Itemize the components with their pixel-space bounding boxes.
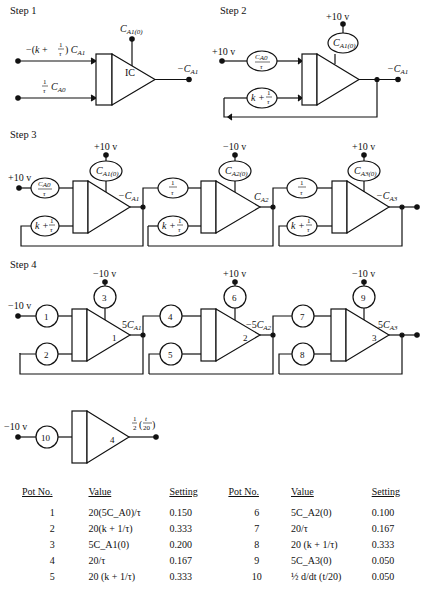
output-node (187, 77, 191, 81)
svg-text:1: 1 (112, 333, 117, 343)
svg-text:CA2: CA2 (254, 191, 269, 204)
svg-text:3: 3 (372, 333, 377, 343)
svg-text:k +: k + (162, 220, 176, 231)
step-1-label: Step 1 (10, 5, 37, 16)
step-4-scaled-circuit: −10 v 1 2 1 3 −10 v 5CA1 4 5 2 (4, 268, 419, 463)
svg-text:8: 8 (300, 350, 305, 360)
svg-text:k +: k + (35, 220, 49, 231)
table-row: 2 20(k + 1/τ) 0.333 7 20/τ 0.167 (22, 520, 421, 536)
svg-text:+10 v: +10 v (326, 11, 349, 22)
svg-text:−10 v: −10 v (223, 141, 246, 152)
svg-text:6: 6 (232, 293, 237, 303)
svg-text:2: 2 (243, 333, 248, 343)
svg-text:τ: τ (59, 50, 62, 58)
step-2-label: Step 2 (220, 5, 247, 16)
svg-text:9: 9 (361, 293, 366, 303)
svg-text:−10 v: −10 v (352, 268, 375, 279)
step-3-label: Step 3 (10, 129, 37, 140)
table-row: 4 20/τ 0.167 9 5C_A3(0) 0.050 (22, 552, 421, 568)
analog-computer-diagram: Step 1 IC −(k + 1 τ ) CA1 1 τ CA0 CA1(0)… (0, 0, 421, 480)
svg-text:−(k +: −(k + (26, 44, 48, 56)
step-2-integrator: +10 v CA0 τ k + 1 τ CA1(0) +10 v −CA1 (212, 11, 408, 120)
step-3-chain: +10 v CA0 τ k + 1 τ CA1(0) +10 v −CA1 1 … (8, 141, 419, 246)
svg-text:−10 v: −10 v (93, 268, 116, 279)
input-node (16, 96, 20, 100)
svg-text:2: 2 (133, 424, 137, 432)
table-row: 1 20(5C_A0)/τ 0.150 6 5C_A2(0) 0.100 (22, 504, 421, 520)
svg-text:4: 4 (110, 435, 115, 445)
col-setting: Setting (169, 484, 228, 504)
svg-text:1: 1 (44, 312, 49, 322)
op-amp-triangle (112, 54, 155, 105)
svg-text:4: 4 (168, 312, 173, 322)
svg-text:+10 v: +10 v (352, 141, 375, 152)
col-value-2: Value (285, 484, 372, 504)
svg-text:CA0: CA0 (51, 81, 66, 94)
svg-text:1: 1 (43, 78, 47, 86)
svg-text:+10 v: +10 v (212, 46, 235, 57)
svg-text:−CA1: −CA1 (177, 63, 198, 76)
svg-text:1: 1 (267, 89, 271, 97)
svg-text:+10 v: +10 v (94, 141, 117, 152)
svg-text:5: 5 (168, 350, 173, 360)
svg-text:−CA1: −CA1 (387, 63, 408, 76)
svg-text:1: 1 (171, 179, 175, 187)
svg-text:+10 v: +10 v (223, 268, 246, 279)
input-node (16, 59, 20, 63)
table-header: Pot No. Value Setting Pot No. Value Sett… (22, 484, 421, 504)
step-4-label: Step 4 (10, 259, 37, 270)
col-value: Value (82, 484, 169, 504)
svg-text:CA1(0): CA1(0) (120, 23, 143, 36)
svg-text:CA0: CA0 (255, 53, 268, 62)
summing-block (96, 54, 112, 105)
svg-text:): ) (152, 419, 155, 431)
svg-text:k +: k + (251, 92, 265, 103)
table-row: 3 5C_A1(0) 0.200 8 20 (k + 1/τ) 0.333 (22, 536, 421, 552)
col-pot-no-2: Pot No. (228, 484, 285, 504)
svg-text:CA0: CA0 (38, 180, 51, 189)
svg-text:1: 1 (307, 217, 311, 225)
svg-text:) CA1: ) CA1 (65, 44, 85, 57)
svg-text:2: 2 (44, 350, 49, 360)
pot-settings-table: Pot No. Value Setting Pot No. Value Sett… (22, 484, 421, 584)
col-setting-2: Setting (372, 484, 421, 504)
svg-text:+10 v: +10 v (8, 172, 31, 183)
step-1-integrator: IC −(k + 1 τ ) CA1 1 τ CA0 CA1(0) −CA1 (16, 23, 198, 105)
svg-text:1: 1 (59, 41, 63, 49)
svg-text:k +: k + (291, 220, 305, 231)
svg-text:20: 20 (143, 424, 151, 432)
svg-text:τ: τ (43, 87, 46, 95)
svg-text:10: 10 (41, 433, 51, 443)
svg-text:3: 3 (102, 293, 107, 303)
svg-text:−10 v: −10 v (8, 300, 31, 311)
table-row: 5 20 (k + 1/τ) 0.333 10 ½ d/dt (t/20) 0.… (22, 568, 421, 584)
svg-text:7: 7 (300, 312, 305, 322)
svg-text:1: 1 (178, 217, 182, 225)
svg-text:1: 1 (50, 217, 54, 225)
svg-text:IC: IC (125, 67, 135, 78)
svg-text:−10 v: −10 v (4, 421, 27, 432)
col-pot-no: Pot No. (22, 484, 82, 504)
svg-text:5CA1: 5CA1 (122, 319, 141, 332)
svg-text:t: t (145, 415, 148, 423)
svg-text:1: 1 (133, 415, 137, 423)
svg-text:1: 1 (300, 179, 304, 187)
